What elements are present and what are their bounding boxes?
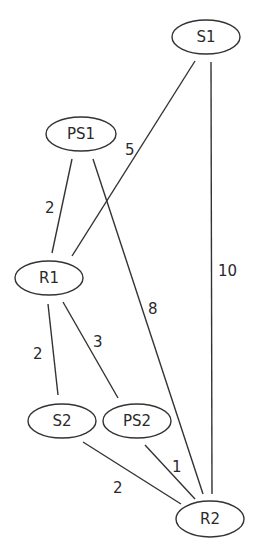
edge-weight-label: 5 — [125, 141, 135, 159]
edge-weight-label: 10 — [218, 262, 237, 280]
node-label: R1 — [39, 269, 59, 287]
edge-ps1-r1 — [52, 159, 72, 253]
edge-s2-r2 — [83, 442, 181, 504]
node-r2: R2 — [176, 501, 244, 537]
edge-ps1-r2 — [93, 159, 203, 494]
node-label: PS1 — [67, 125, 95, 143]
node-label: PS2 — [123, 412, 151, 430]
node-label: R2 — [200, 510, 220, 528]
node-s1: S1 — [172, 20, 240, 54]
edge-weight-label: 1 — [172, 458, 182, 476]
edge-weight-label: 3 — [93, 333, 103, 351]
node-label: S1 — [196, 28, 215, 46]
network-graph: 510282321 S1PS1R1S2PS2R2 — [0, 0, 259, 560]
node-r1: R1 — [15, 261, 83, 295]
edge-weight-label: 2 — [113, 479, 123, 497]
edge-s1-r2 — [211, 62, 212, 494]
edge-r1-ps2 — [63, 302, 118, 398]
node-s2: S2 — [28, 404, 96, 438]
edge-weight-label: 8 — [148, 300, 158, 318]
edge-ps2-r2 — [145, 445, 195, 499]
edge-weight-label: 2 — [45, 199, 55, 217]
nodes-layer: S1PS1R1S2PS2R2 — [15, 20, 244, 537]
edge-weight-label: 2 — [33, 345, 43, 363]
node-label: S2 — [52, 412, 71, 430]
edge-r1-s2 — [48, 304, 58, 395]
node-ps1: PS1 — [46, 117, 116, 151]
node-ps2: PS2 — [103, 404, 171, 438]
